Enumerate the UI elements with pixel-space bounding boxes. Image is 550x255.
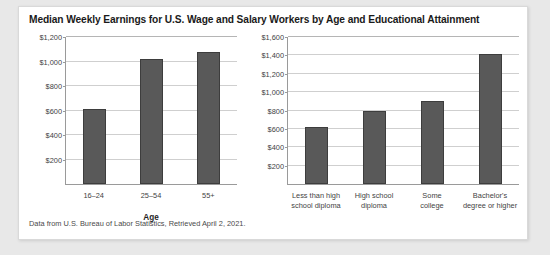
x-axis-label: 55+ [180,191,237,201]
bar[interactable] [197,52,220,184]
x-axis-labels-age: 16–2425–5455+ [65,191,237,201]
plot-wrap-education: $0$200$400$600$800$1,000$1,200$1,400$1,6… [243,33,525,185]
plot-wrap-age: $0$200$400$600$800$1,000$1,200 [25,33,243,185]
y-tick-label: $600 [46,106,62,115]
bar[interactable] [305,127,328,184]
chart-figure: Median Weekly Earnings for U.S. Wage and… [0,0,550,255]
bar-slot[interactable] [346,37,404,184]
bar[interactable] [363,111,386,184]
plot-area-education: $0$200$400$600$800$1,000$1,200$1,400$1,6… [287,37,519,185]
bar-slot[interactable] [288,37,346,184]
bar[interactable] [140,59,163,184]
y-tick-label: $800 [46,82,62,91]
bar-slot[interactable] [404,37,462,184]
bar-slot[interactable] [461,37,519,184]
y-tick-label: $200 [46,155,62,164]
bar[interactable] [479,54,502,184]
bar-slot[interactable] [123,37,180,184]
figure-card: Median Weekly Earnings for U.S. Wage and… [18,6,528,240]
bar-slot[interactable] [66,37,123,184]
y-tick-label: $400 [268,143,284,152]
chart-panel-education: $0$200$400$600$800$1,000$1,200$1,400$1,6… [243,33,525,185]
x-axis-label: Less than highschool diploma [287,191,345,210]
source-footnote: Data from U.S. Bureau of Labor Statistic… [29,219,246,228]
plot-area-age: $0$200$400$600$800$1,000$1,200 [65,37,237,185]
y-tick-label: $1,600 [261,33,284,42]
y-tick-label: $1,200 [261,69,284,78]
bar-slot[interactable] [180,37,237,184]
y-tick-label: $1,400 [261,51,284,60]
x-axis-label: Somecollege [403,191,461,210]
y-tick-label: $200 [268,161,284,170]
y-tick-label: $400 [46,131,62,140]
y-tick-label: $1,200 [39,33,62,42]
y-tick-label: $1,000 [39,57,62,66]
x-axis-label: 25–54 [122,191,179,201]
bar-group-education [288,37,519,184]
chart-panel-age: $0$200$400$600$800$1,000$1,200 16–2425–5… [25,33,243,185]
page-title: Median Weekly Earnings for U.S. Wage and… [29,14,479,25]
x-axis-label: 16–24 [65,191,122,201]
bar[interactable] [421,101,444,184]
y-tick-label: $1,000 [261,88,284,97]
x-axis-label: High schooldiploma [345,191,403,210]
x-axis-labels-education: Less than highschool diplomaHigh schoold… [287,191,519,210]
x-axis-label: Bachelor'sdegree or higher [461,191,519,210]
bar[interactable] [83,109,106,184]
y-tick-label: $800 [268,106,284,115]
bar-group-age [66,37,237,184]
y-tick-label: $600 [268,124,284,133]
